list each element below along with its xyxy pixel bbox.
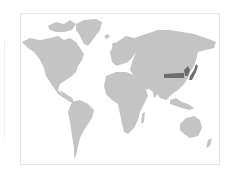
world-map bbox=[0, 0, 234, 172]
land-masses bbox=[22, 19, 216, 158]
southeast-asia-islands bbox=[170, 98, 194, 110]
australia bbox=[180, 116, 202, 138]
arctic-islands bbox=[48, 20, 76, 32]
south-america bbox=[68, 100, 94, 158]
new-zealand bbox=[206, 138, 212, 148]
greenland bbox=[76, 19, 102, 46]
iceland bbox=[104, 34, 110, 39]
north-america bbox=[22, 36, 84, 100]
madagascar bbox=[141, 112, 145, 124]
